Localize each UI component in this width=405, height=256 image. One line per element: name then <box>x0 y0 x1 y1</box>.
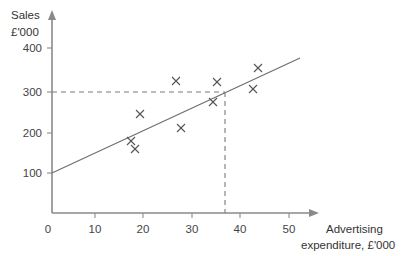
data-point <box>172 77 180 85</box>
plot-area: 400 300 200 100 0 10 20 30 40 50 Sales £… <box>0 0 405 256</box>
data-point <box>131 145 139 153</box>
data-point <box>249 85 257 93</box>
data-point <box>177 124 185 132</box>
data-point <box>136 110 144 118</box>
x-tick-label-10: 10 <box>89 223 102 235</box>
data-point-group <box>127 64 262 153</box>
x-axis-title-line2: expenditure, £'000 <box>301 239 395 251</box>
y-axis-title-line2: £'000 <box>11 26 39 38</box>
data-point <box>254 64 262 72</box>
scatter-chart: 400 300 200 100 0 10 20 30 40 50 Sales £… <box>0 0 405 256</box>
y-tick-label-400: 400 <box>23 42 42 54</box>
y-tick-label-300: 300 <box>23 86 42 98</box>
data-point <box>213 78 221 86</box>
x-axis-title-line1: Advertising <box>326 223 383 235</box>
regression-line <box>52 58 300 173</box>
data-point <box>209 98 217 106</box>
x-tick-label-40: 40 <box>234 223 247 235</box>
x-tick-label-20: 20 <box>137 223 150 235</box>
x-tick-label-30: 30 <box>186 223 199 235</box>
x-tick-label-0: 0 <box>45 223 51 235</box>
y-tick-label-200: 200 <box>23 127 42 139</box>
y-tick-label-100: 100 <box>23 167 42 179</box>
x-axis-arrowhead <box>309 209 319 217</box>
x-tick-label-50: 50 <box>283 223 296 235</box>
y-axis-title-line1: Sales <box>11 9 40 21</box>
data-point <box>127 137 135 145</box>
y-axis-arrowhead <box>48 10 56 20</box>
